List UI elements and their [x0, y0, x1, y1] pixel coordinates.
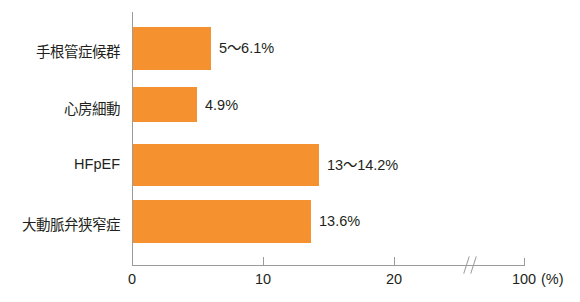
- category-label-atrial-fibrillation: 心房細動: [64, 97, 120, 118]
- x-tick-label-20: 20: [386, 272, 402, 287]
- bar-carpal-tunnel-syndrome: [133, 27, 211, 70]
- bar-hfpef: [133, 144, 319, 186]
- bar-aortic-stenosis: [133, 200, 311, 243]
- x-axis-unit-label: (%): [541, 272, 564, 287]
- category-label-hfpef: HFpEF: [74, 156, 120, 172]
- x-tick-100: [524, 258, 525, 266]
- bar-value-carpal-tunnel-syndrome: 5〜6.1%: [219, 41, 274, 56]
- category-label-aortic-stenosis: 大動脈弁狭窄症: [22, 213, 120, 234]
- x-tick-20: [394, 257, 395, 265]
- x-tick-0: [132, 257, 133, 265]
- bar-chart: 0 10 20 100 (%) 手根管症候群 心房細動 HFpEF 大動脈弁狭窄…: [0, 0, 580, 302]
- x-tick-label-10: 10: [255, 272, 271, 287]
- bar-value-aortic-stenosis: 13.6%: [319, 214, 360, 229]
- x-tick-label-100: 100: [512, 272, 536, 287]
- x-tick-10: [263, 257, 264, 265]
- bar-value-atrial-fibrillation: 4.9%: [205, 98, 238, 113]
- x-tick-label-0: 0: [128, 272, 136, 287]
- category-label-carpal-tunnel-syndrome: 手根管症候群: [36, 40, 120, 61]
- bar-atrial-fibrillation: [133, 87, 197, 122]
- bar-value-hfpef: 13〜14.2%: [327, 158, 398, 173]
- plot-area: 0 10 20 100 (%) 手根管症候群 心房細動 HFpEF 大動脈弁狭窄…: [0, 0, 580, 302]
